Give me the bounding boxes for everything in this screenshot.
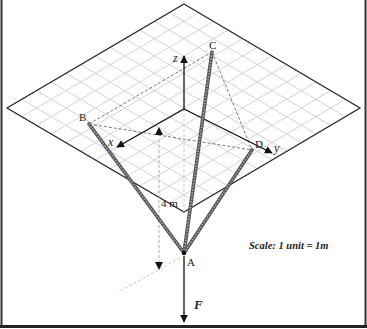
- height-dimension-label: 4 m: [161, 197, 178, 209]
- point-b-label: B: [79, 111, 86, 123]
- z-axis-label: z: [172, 51, 178, 65]
- dashed-line-bd: [89, 124, 252, 150]
- point-a-dot: [182, 251, 186, 255]
- point-d-label: D: [255, 138, 263, 150]
- diagram-frame: z x y A B C D F 4 m Scale: 1 unit = 1m: [0, 0, 367, 329]
- height-arrow-up-icon: [155, 127, 163, 135]
- point-a-label: A: [187, 256, 195, 268]
- force-label: F: [193, 297, 203, 312]
- y-axis-label: y: [273, 141, 280, 155]
- projection-dashed-lines: [89, 52, 252, 292]
- dashed-line-neg-x: [118, 258, 180, 292]
- x-axis: [117, 109, 184, 147]
- x-axis-label: x: [107, 135, 114, 149]
- diagram-canvas: z x y A B C D F 4 m Scale: 1 unit = 1m: [0, 0, 367, 329]
- scale-label: Scale: 1 unit = 1m: [249, 240, 329, 251]
- height-arrow-down-icon: [155, 262, 163, 270]
- point-c-label: C: [209, 39, 216, 51]
